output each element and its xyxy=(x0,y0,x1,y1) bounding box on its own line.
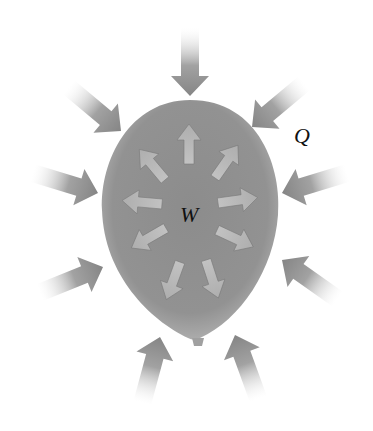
heat-arrow-left xyxy=(27,155,103,211)
heat-arrow-bottom-right xyxy=(217,329,276,406)
heat-arrow-lower-right xyxy=(271,244,348,314)
heat-arrow-bottom-left xyxy=(124,332,178,408)
heat-arrow-upper-left xyxy=(57,73,134,146)
balloon-knot xyxy=(192,338,204,346)
heat-arrow-lower-left xyxy=(33,249,110,310)
work-label-w: W xyxy=(180,204,198,226)
heat-arrow-top xyxy=(171,28,209,96)
heat-arrow-right xyxy=(276,155,352,211)
heat-label-q: Q xyxy=(294,125,310,147)
